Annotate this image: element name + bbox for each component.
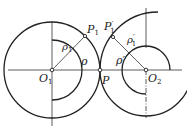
label-p1-prime: P′1 bbox=[103, 19, 115, 35]
gear-pitch-curve-diagram: O1 O2 P P1 P′1 ρ1 ρ ρ′ ρ′1 bbox=[0, 0, 187, 136]
label-o1: O1 bbox=[39, 72, 53, 86]
p1-prime-point bbox=[111, 35, 114, 38]
label-p: P bbox=[101, 74, 110, 87]
label-rho1-prime: ρ′1 bbox=[126, 32, 136, 48]
label-rho: ρ bbox=[80, 55, 88, 68]
diagram-canvas: O1 O2 P P1 P′1 ρ1 ρ ρ′ ρ′1 bbox=[0, 0, 187, 136]
label-p1: P1 bbox=[86, 23, 99, 37]
label-o2: O2 bbox=[148, 72, 162, 86]
p-point bbox=[98, 68, 102, 72]
label-rho1: ρ1 bbox=[61, 41, 72, 54]
o1-point bbox=[50, 68, 54, 72]
label-rho-prime: ρ′ bbox=[115, 54, 125, 67]
o1-lower-transition-arc bbox=[52, 70, 100, 118]
o2-lower-arc bbox=[100, 70, 187, 116]
